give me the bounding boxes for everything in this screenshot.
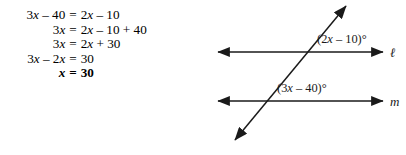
equation-right-side: 30: [77, 52, 147, 67]
equation-right-side: 2x + 30: [77, 37, 147, 52]
equation-step-final-answer: x = 30: [0, 66, 150, 81]
equation-right-side: 30: [77, 66, 147, 81]
equation-left-side: 3x – 2x: [3, 52, 69, 67]
equals-sign: =: [69, 23, 76, 38]
angle-label-lower: (3x – 40)°: [277, 81, 327, 95]
line-name-l: ℓ: [390, 45, 396, 60]
equation-left-side: 3x: [3, 37, 69, 52]
equation-left-side: 3x: [3, 23, 69, 38]
equation-left-side: x: [3, 66, 69, 81]
equation-step: 3x – 2x = 30: [0, 52, 150, 67]
equation-step: 3x – 40 = 2x – 10: [0, 8, 150, 23]
equals-sign: =: [69, 52, 76, 67]
equals-sign: =: [69, 8, 76, 23]
equals-sign: =: [69, 66, 77, 81]
angle-label-upper: (2x – 10)°: [317, 32, 367, 46]
equation-left-side: 3x – 40: [3, 8, 69, 23]
equals-sign: =: [69, 37, 76, 52]
equation-right-side: 2x – 10: [77, 8, 147, 23]
equation-step: 3x = 2x – 10 + 40: [0, 23, 150, 38]
parallel-lines-diagram: (2x – 10)° (3x – 40)° ℓ m: [206, 0, 406, 155]
transversal-line: [235, 6, 346, 140]
line-name-m: m: [390, 94, 399, 109]
equation-right-side: 2x – 10 + 40: [77, 23, 147, 38]
algebraic-solution-steps: 3x – 40 = 2x – 10 3x = 2x – 10 + 40 3x =…: [0, 8, 150, 81]
equation-step: 3x = 2x + 30: [0, 37, 150, 52]
